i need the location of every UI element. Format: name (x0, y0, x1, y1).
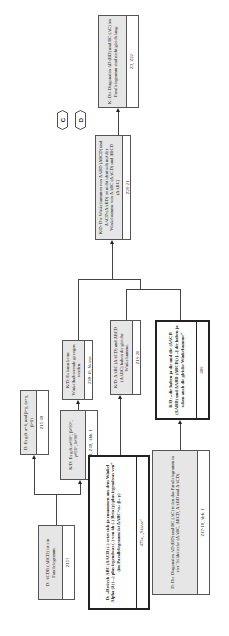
node-text: D: Es gilt α=δ, und β=γ, (α+γ, β=δ) (21, 391, 37, 454)
argumentation-diagram: C D K: Die Diagonalen AD (BD) und BC (AC… (0, 0, 229, 636)
node-d-dreieck-abc: D: „Dreieck ABC (ΔACD) (-) setzt sich ja… (88, 455, 150, 610)
node-reference: Z20-21 (123, 136, 134, 239)
arrow-head (110, 240, 114, 244)
node-d-parallelogramm: D: ACDB (ABCD) ist ein Parallelogramm. Z… (38, 525, 75, 600)
node-text: K: Die Diagonalen AD (BD) und BC (AC) im… (99, 16, 127, 107)
marker-c-hexagon: C (57, 110, 68, 130)
connector (34, 457, 35, 495)
node-reference: Z17-18, Abb. 1 (198, 451, 209, 594)
arrow-head (32, 455, 36, 459)
arrow-head (116, 108, 120, 112)
node-reference: Z3, Z22 (127, 16, 138, 107)
connector (126, 290, 127, 320)
connector (126, 289, 181, 290)
node-d-diagonalen-teilen: D: Die Diagonalen AD (BD) und BC (AC) te… (152, 450, 210, 595)
connector (56, 495, 57, 525)
node-reference: 475a, „Skizze“ (137, 457, 148, 608)
node-k-diagonalen: K: Die Diagonalen AD (BD) und BC (AC) im… (98, 15, 139, 108)
node-text: K/D: Es kann keine Winkelhalbierende gez… (63, 341, 85, 399)
node-reference: Z18-19, Skizze (85, 341, 96, 399)
arrow-head (78, 480, 82, 484)
node-text: K/D: ΔABC (ΔACD) und ΔBCD (ΔABC) haben d… (111, 321, 133, 394)
connector (78, 279, 141, 280)
node-reference: Z19-20 (133, 321, 144, 394)
connector (180, 290, 181, 320)
arrow-head (178, 420, 182, 424)
connector (180, 422, 181, 450)
connector (112, 242, 113, 280)
node-kd-keine-winkelhalbierende: K/D: Es kann keine Winkelhalbierende gez… (62, 340, 93, 400)
connector (120, 397, 121, 455)
connector (140, 280, 141, 290)
node-reference: 489 (197, 322, 208, 418)
node-text: K/D: „die haben ja die und die (ΔACD (ΔA… (157, 322, 197, 418)
node-reference: Z15-18 (37, 391, 48, 454)
node-text: D: ACDB (ABCD) ist ein Parallelogramm. (39, 526, 63, 599)
marker-c-label: C (60, 118, 66, 122)
node-text: K/D: Es gilt α≠90°, β≠90°, γ≠90°, δ≠90° (61, 411, 86, 479)
node-kd-die-haben-ja: K/D: „die haben ja die und die (ΔACD (ΔA… (155, 320, 210, 420)
connector (34, 494, 80, 495)
marker-d-label: D (78, 118, 84, 122)
connector (78, 280, 79, 340)
node-kd-gleiche-winkelsumme: K/D: ΔABC (ΔACD) und ΔBCD (ΔABC) haben d… (110, 320, 141, 395)
node-text: D: Die Diagonalen AD (BD) und BC (AC) te… (153, 451, 198, 594)
arrow-head (76, 400, 80, 404)
node-kd-winkelsummen: K/D: Die Winkelsummen von ΔABD (ΔBCD) un… (95, 135, 131, 240)
node-text: K/D: Die Winkelsummen von ΔABD (ΔBCD) un… (96, 136, 123, 239)
marker-d-hexagon: D (75, 110, 86, 130)
connector (118, 110, 119, 135)
node-d-es-gilt-gleich: D: Es gilt α=δ, und β=γ, (α+γ, β=δ) Z15-… (20, 390, 49, 455)
node-text: D: „Dreieck ABC (ΔACD) (-) setzt sich ja… (90, 457, 137, 608)
node-reference: Z15? (63, 526, 74, 599)
arrow-head (118, 395, 122, 399)
